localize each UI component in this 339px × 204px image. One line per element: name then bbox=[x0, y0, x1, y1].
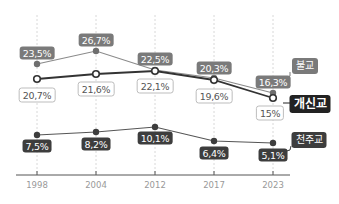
label-buddhism-2012: 22,5% bbox=[138, 53, 173, 66]
label-buddhism-2017: 20,3% bbox=[197, 62, 232, 75]
label-catholic-2017: 6,4% bbox=[200, 147, 229, 160]
label-buddhism-2023: 16,3% bbox=[256, 76, 291, 89]
label-protestant-2004: 21,6% bbox=[78, 82, 115, 97]
label-catholic-2012: 10,1% bbox=[138, 132, 173, 145]
label-protestant-2017: 19,6% bbox=[196, 89, 233, 104]
x-tick-2004: 2004 bbox=[85, 180, 107, 190]
gridlines bbox=[37, 15, 273, 175]
x-tick-2017: 2017 bbox=[203, 180, 225, 190]
label-buddhism-1998: 23,5% bbox=[20, 47, 55, 60]
legend-protestant: 개신교 bbox=[290, 95, 331, 113]
label-buddhism-2004: 26,7% bbox=[79, 34, 114, 47]
x-tick-2012: 2012 bbox=[144, 180, 166, 190]
legend-catholic: 천주교 bbox=[292, 132, 327, 148]
label-catholic-2004: 8,2% bbox=[82, 138, 111, 151]
label-catholic-2023: 5,1% bbox=[259, 149, 288, 162]
label-protestant-2012: 22,1% bbox=[137, 79, 174, 94]
legend-buddhism: 불교 bbox=[292, 58, 318, 74]
x-tick-2023: 2023 bbox=[262, 180, 284, 190]
religion-trend-chart: 23,5% 26,7% 22,5% 20,3% 16,3% 20,7% 21,6… bbox=[0, 0, 339, 204]
x-tick-1998: 1998 bbox=[26, 180, 48, 190]
label-protestant-2023: 15% bbox=[256, 106, 284, 121]
label-protestant-1998: 20,7% bbox=[19, 88, 56, 103]
label-catholic-1998: 7,5% bbox=[23, 140, 52, 153]
